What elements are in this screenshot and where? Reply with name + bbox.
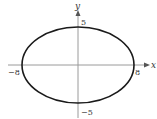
tick-label-y-pos: 5 <box>81 18 86 27</box>
ellipse-diagram: y x 5 −5 −8 8 <box>0 0 157 119</box>
x-axis-label: x <box>151 60 156 70</box>
tick-label-y-neg: −5 <box>81 108 93 117</box>
x-axis-arrow-icon <box>144 63 150 68</box>
tick-label-x-neg: −8 <box>8 68 20 77</box>
tick-label-x-pos: 8 <box>135 68 140 77</box>
x-axis <box>8 63 150 68</box>
y-axis-label: y <box>74 1 81 11</box>
